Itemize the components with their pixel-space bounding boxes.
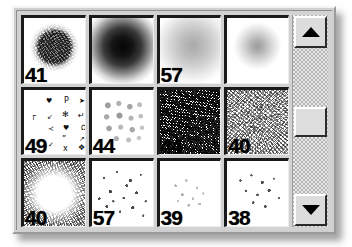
brush-symbol-glyph: ↵ [78,112,85,120]
brush-soft-round-57[interactable]: 57 [157,15,222,84]
brush-symbol-glyph: ➤ [79,98,85,105]
brush-soft-round-small[interactable] [224,15,289,84]
brush-scrollbar[interactable] [292,15,328,227]
brush-symbol-glyph: ↙ [47,114,53,121]
brush-symbol-glyph: ❖ [78,144,85,152]
brush-light-noise-40[interactable]: 40 [224,87,289,156]
brush-preview-swatch [160,18,221,83]
brush-soft-dot-grid-44[interactable]: 44 [89,87,154,156]
brush-palette-panel: 4157♥P➤┌↙✻↵≺♥Ω”↗✓x❖4944444040573938 [12,6,336,234]
brush-preview-swatch [24,161,85,226]
brush-symbol-glyph: ✓ [48,142,54,149]
scroll-up-button[interactable] [294,16,327,48]
brush-preview-swatch [227,161,288,226]
brush-symbol-glyph: P [64,97,69,105]
brush-symbol-glyph: ✻ [62,111,69,119]
brush-preview-swatch [160,90,221,155]
brush-symbol-glyph: ≺ [48,126,54,133]
scroll-down-button[interactable] [294,194,327,226]
brush-symbol-glyph: ┌ [31,112,36,120]
brush-symbol-glyph: ↗ [79,136,85,143]
brush-grid: 4157♥P➤┌↙✻↵≺♥Ω”↗✓x❖4944444040573938 [21,15,289,227]
brush-preview-swatch [160,161,221,226]
brush-preview-swatch [92,90,153,155]
brush-symbol-glyph: ♥ [63,125,69,132]
brush-symbol-glyph: ♥ [46,98,52,105]
brush-preview-swatch [92,18,153,83]
brush-preview-swatch [227,18,288,83]
brush-textured-round-41[interactable]: 41 [21,15,86,84]
brush-dense-noise-44[interactable]: 44 [157,87,222,156]
brush-symbol-glyph: x [63,145,68,153]
scrollbar-thumb[interactable] [294,107,327,137]
brush-symbol-glyph: Ω [81,125,86,132]
brush-preview-swatch [92,161,153,226]
brush-preview-swatch: ♥P➤┌↙✻↵≺♥Ω”↗✓x❖ [24,90,85,155]
brush-edge-noise-40[interactable]: 40 [21,158,86,227]
brush-speckle-57[interactable]: 57 [89,158,154,227]
brush-faint-speckle-39[interactable]: 39 [157,158,222,227]
triangle-down-icon [302,205,320,215]
brush-assorted-symbols-49[interactable]: ♥P➤┌↙✻↵≺♥Ω”↗✓x❖49 [21,87,86,156]
brush-sparse-speckle-38[interactable]: 38 [224,158,289,227]
brush-symbol-glyph: ” [62,136,66,144]
brush-preview-swatch [227,90,288,155]
brush-palette-inner: 4157♥P➤┌↙✻↵≺♥Ω”↗✓x❖4944444040573938 [16,10,332,230]
brush-preview-swatch [24,18,85,83]
triangle-up-icon [302,27,320,37]
brush-soft-round-dark[interactable] [89,15,154,84]
